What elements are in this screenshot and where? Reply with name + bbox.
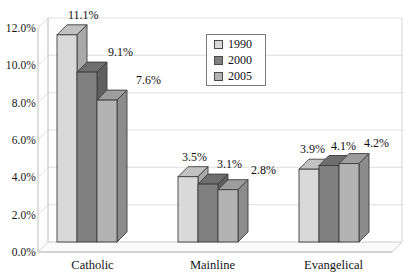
bar-catholic-2005 [97, 90, 127, 242]
bar-evangelical-2005 [339, 154, 369, 242]
chart-floor [38, 242, 402, 252]
bar-chart: 12.0% 10.0% 8.0% 6.0% 4.0% 2.0% 0.0% Cat… [0, 0, 415, 280]
chart-canvas [0, 0, 415, 280]
bar-mainline-2005 [218, 180, 248, 242]
